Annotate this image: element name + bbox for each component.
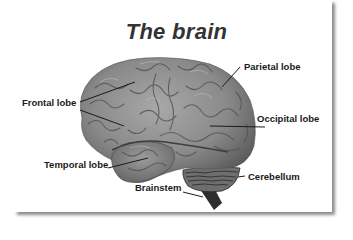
temporal-lobe-shape	[112, 142, 175, 183]
brainstem-leader	[183, 192, 203, 197]
label-occipital-lobe: Occipital lobe	[257, 113, 319, 124]
label-frontal-lobe: Frontal lobe	[22, 97, 76, 108]
cerebellum-leader	[238, 176, 245, 177]
label-parietal-lobe: Parietal lobe	[244, 61, 301, 72]
label-temporal-lobe: Temporal lobe	[44, 159, 108, 170]
label-cerebellum: Cerebellum	[248, 171, 300, 182]
label-brainstem: Brainstem	[135, 182, 181, 193]
cerebellum-shape	[183, 167, 240, 192]
